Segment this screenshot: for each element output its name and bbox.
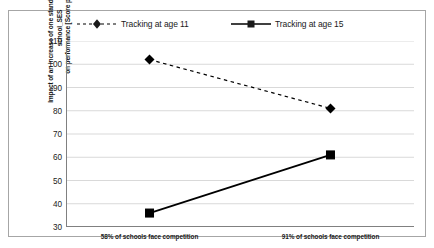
y-axis-tick-label: 100 (40, 60, 62, 69)
data-point-marker (146, 209, 154, 217)
chart-container: Tracking at age 11 Tracking at age 15 Im… (8, 10, 426, 237)
x-axis-tick-label: 58% of schools face competition (101, 233, 199, 240)
y-axis-tick-label: 50 (40, 176, 62, 185)
y-axis-tick-label: 70 (40, 130, 62, 139)
y-axis-tick-label: 40 (40, 199, 62, 208)
y-axis-tick-label: 30 (40, 223, 62, 232)
data-point-marker (326, 151, 334, 159)
legend-entry-tracking-age-15: Tracking at age 15 (231, 15, 343, 33)
data-point-marker (325, 103, 335, 113)
y-axis-tick-labels: 11010090807060504030 (37, 41, 62, 227)
plot-area (66, 41, 414, 227)
gridlines (66, 41, 414, 227)
data-series-layer (145, 55, 336, 217)
series-line (150, 155, 331, 213)
legend-entry-tracking-age-11: Tracking at age 11 (77, 15, 189, 33)
data-point-marker (145, 55, 155, 65)
solid-square-key-icon (231, 18, 271, 30)
series-line (150, 60, 331, 109)
legend-label: Tracking at age 15 (275, 19, 343, 29)
dashed-diamond-key-icon (77, 18, 117, 30)
legend-label: Tracking at age 11 (121, 19, 189, 29)
y-axis-tick-label: 60 (40, 153, 62, 162)
x-axis-tick-label: 91% of schools face competition (282, 233, 380, 240)
y-axis-tick-label: 80 (40, 106, 62, 115)
y-axis-tick-label: 110 (40, 37, 62, 46)
x-axis-tick-labels: 58% of schools face competition91% of sc… (66, 233, 414, 247)
chart-plot-svg (66, 41, 414, 227)
y-axis-tick-label: 90 (40, 83, 62, 92)
